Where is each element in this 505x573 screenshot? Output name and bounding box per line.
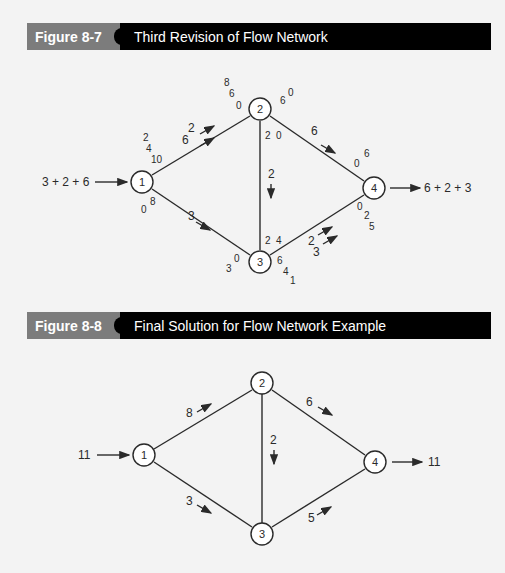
node-label: 1 (139, 176, 145, 188)
svg-text:0: 0 (288, 87, 294, 98)
figure-8-8-header: Figure 8-8 Final Solution for Flow Netwo… (27, 312, 491, 339)
svg-text:6: 6 (182, 133, 189, 147)
svg-text:3: 3 (226, 263, 232, 274)
node-label: 3 (259, 528, 265, 540)
svg-text:2: 2 (188, 121, 195, 135)
svg-text:2: 2 (268, 167, 275, 181)
source-label: 11 (78, 448, 91, 462)
svg-text:0: 0 (357, 201, 363, 212)
svg-text:4: 4 (283, 266, 289, 277)
svg-text:2: 2 (364, 210, 370, 221)
svg-text:3: 3 (313, 245, 320, 259)
svg-text:2: 2 (143, 132, 149, 143)
svg-text:6: 6 (277, 255, 283, 266)
svg-text:3: 3 (188, 209, 195, 223)
svg-text:1: 1 (290, 275, 296, 286)
edge-2-4 (272, 390, 365, 455)
node-label: 4 (372, 456, 378, 468)
svg-text:6: 6 (306, 395, 313, 409)
svg-text:8: 8 (224, 77, 230, 88)
svg-text:2: 2 (265, 130, 271, 141)
figure-number: Figure 8-8 (27, 312, 120, 339)
edge-1-3 (154, 462, 252, 527)
svg-text:4: 4 (146, 143, 152, 154)
svg-text:2: 2 (265, 235, 271, 246)
svg-text:6: 6 (311, 124, 318, 138)
node-label: 1 (141, 449, 147, 461)
node-label: 4 (371, 182, 377, 194)
svg-text:6: 6 (280, 95, 286, 106)
svg-text:6: 6 (364, 148, 370, 159)
svg-text:5: 5 (308, 511, 315, 525)
svg-text:4: 4 (276, 235, 282, 246)
sink-label: 11 (428, 455, 441, 469)
svg-text:3: 3 (186, 494, 193, 508)
node-label: 3 (257, 256, 263, 268)
node-label: 2 (259, 377, 265, 389)
svg-text:0: 0 (141, 204, 147, 215)
svg-text:0: 0 (236, 100, 242, 111)
svg-text:0: 0 (234, 253, 240, 264)
svg-text:2: 2 (270, 433, 277, 447)
svg-text:6: 6 (229, 88, 235, 99)
flow-network-diagram-8-7: 1 2 3 4 3 + 2 + 6 6 + 2 + 3 2 6 2 4 10 8… (0, 0, 505, 290)
svg-text:0: 0 (276, 130, 282, 141)
edge-1-3 (152, 189, 250, 255)
edge-1-2 (154, 390, 252, 449)
svg-text:10: 10 (151, 154, 163, 165)
source-label: 3 + 2 + 6 (42, 175, 90, 189)
node-label: 2 (257, 103, 263, 115)
svg-text:5: 5 (369, 221, 375, 232)
svg-text:0: 0 (354, 158, 360, 169)
figure-title: Final Solution for Flow Network Example (120, 312, 491, 339)
svg-text:8: 8 (150, 196, 156, 207)
flow-network-diagram-8-8: 1 2 3 4 11 11 8 3 2 6 5 (0, 340, 505, 573)
svg-text:8: 8 (186, 406, 193, 420)
sink-label: 6 + 2 + 3 (424, 181, 472, 195)
edge-3-4 (272, 469, 365, 527)
